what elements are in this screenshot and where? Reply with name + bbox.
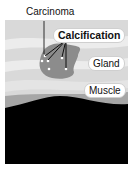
dark-base <box>5 96 128 164</box>
calcification-dot <box>65 68 68 71</box>
calcification-dot <box>48 68 51 71</box>
breast-tissue-diagram: Carcinoma Calcification Gland Muscle <box>0 0 139 175</box>
carcinoma-label: Carcinoma <box>26 7 74 17</box>
calcification-label: Calcification <box>53 28 125 43</box>
gland-label: Gland <box>88 56 125 71</box>
calcification-dot <box>41 60 44 63</box>
calcification-dot <box>47 60 50 63</box>
calcification-dot <box>61 57 64 60</box>
muscle-label: Muscle <box>84 83 126 98</box>
